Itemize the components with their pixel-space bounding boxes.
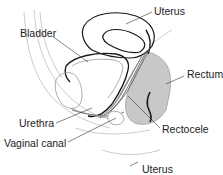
label-uterus: Uterus bbox=[154, 6, 185, 17]
label-rectum: Rectum bbox=[187, 69, 223, 80]
label-rectocele: Rectocele bbox=[162, 124, 209, 135]
rectum-shape bbox=[126, 52, 171, 124]
label-urethra: Urethra bbox=[19, 118, 54, 129]
pubic-bone-shape bbox=[55, 73, 108, 118]
uterus-shape bbox=[82, 13, 154, 58]
bladder-shape bbox=[65, 54, 128, 117]
label-uterus-secondary: Uterus bbox=[142, 164, 173, 175]
label-vaginal-canal: Vaginal canal bbox=[4, 138, 66, 149]
label-bladder: Bladder bbox=[20, 28, 56, 39]
